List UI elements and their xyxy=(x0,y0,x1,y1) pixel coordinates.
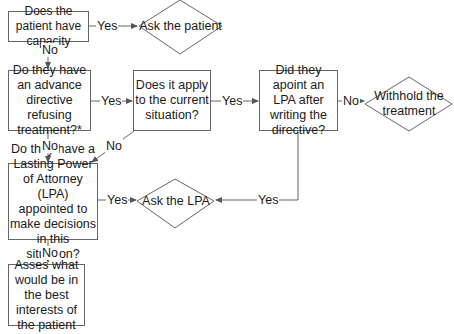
edge-capacity-no: No xyxy=(41,43,59,57)
node-capacity: Does the patient have capacity xyxy=(8,11,89,42)
edge-directive-no: No xyxy=(41,139,59,153)
edge-directive-yes: Yes xyxy=(100,94,122,108)
node-ask-patient-text: Ask the patient xyxy=(139,19,222,34)
node-applies: Does it apply to the current situation? xyxy=(133,70,211,131)
edge-lasting-no: No xyxy=(41,246,59,260)
edge-lasting-yes: Yes xyxy=(106,193,128,207)
node-ask-lpa-text: Ask the LPA xyxy=(142,194,210,209)
node-withhold: Withhold the treatment xyxy=(368,88,450,120)
node-lpa-after-text: Did they apoint an LPA after writing the… xyxy=(260,63,337,138)
node-best-interests: Asses what would be in the best interest… xyxy=(8,264,85,326)
node-applies-text: Does it apply to the current situation? xyxy=(134,78,210,123)
edge-capacity-yes: Yes xyxy=(96,19,118,33)
node-ask-lpa: Ask the LPA xyxy=(140,192,212,210)
edge-applies-yes: Yes xyxy=(221,94,243,108)
node-advance-directive-text: Do they have an advance directive refusi… xyxy=(9,63,90,138)
node-lpa-after: Did they apoint an LPA after writing the… xyxy=(259,70,338,131)
node-best-interests-text: Asses what would be in the best interest… xyxy=(9,258,84,333)
node-ask-patient: Ask the patient xyxy=(139,17,222,35)
node-advance-directive: Do they have an advance directive refusi… xyxy=(8,70,91,131)
node-lasting-power: Do they have a Lasting Power of Attorney… xyxy=(8,163,98,240)
edge-lpa-after-no: No xyxy=(342,94,360,108)
edge-applies-no: No xyxy=(105,139,123,153)
node-lasting-power-text: Do they have a Lasting Power of Attorney… xyxy=(9,142,97,262)
edge-lpa-after-yes: Yes xyxy=(257,193,279,207)
node-withhold-text: Withhold the treatment xyxy=(368,89,450,119)
